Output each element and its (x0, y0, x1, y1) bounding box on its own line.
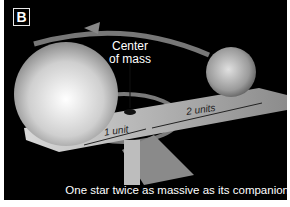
caption: One star twice as massive as its compani… (44, 184, 287, 196)
center-of-mass-marker (124, 109, 136, 115)
center-of-mass-line2: of mass (100, 53, 160, 66)
panel-badge: B (13, 8, 30, 26)
diagram-panel: B Center of mass 1 unit 2 units One star… (4, 0, 287, 200)
center-of-mass-label: Center of mass (100, 40, 160, 66)
balance-illustration (4, 0, 287, 200)
companion-star (206, 47, 256, 97)
fulcrum-post (124, 140, 140, 185)
